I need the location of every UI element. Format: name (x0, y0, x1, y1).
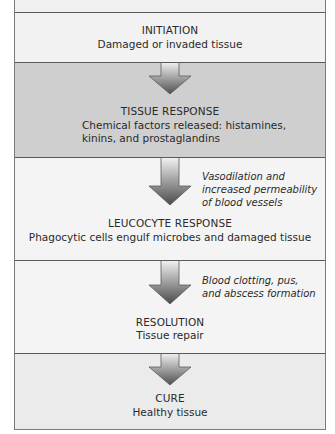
flowchart-frame: INITIATION Damaged or invaded tissue TIS… (14, 0, 326, 430)
transition-note-line-1: Blood clotting, pus, (202, 274, 299, 287)
stage-title: RESOLUTION (15, 316, 325, 328)
transition-note-line-2: increased permeability (202, 183, 317, 196)
stage-initiation: INITIATION Damaged or invaded tissue (15, 12, 325, 63)
transition-note-line-1: Vasodilation and (202, 170, 285, 183)
stage-description: Tissue repair (15, 329, 325, 342)
stage-cure: CURE Healthy tissue (15, 353, 325, 429)
stage-title: CURE (15, 392, 325, 404)
transition-note-line-2: and abscess formation (202, 287, 316, 300)
down-arrow-icon (15, 63, 325, 103)
top-strip (15, 0, 325, 12)
stage-description: Healthy tissue (15, 406, 325, 419)
down-arrow-icon (15, 354, 325, 390)
stage-title: TISSUE RESPONSE (15, 105, 325, 117)
stage-title: INITIATION (15, 24, 325, 36)
stage-resolution: Blood clotting, pus, and abscess formati… (15, 260, 325, 354)
stage-description-line-2: kinins, and prostaglandins (82, 132, 220, 145)
stage-description-line-1: Chemical factors released: histamines, (82, 119, 286, 132)
stage-description: Phagocytic cells engulf microbes and dam… (15, 231, 325, 244)
stage-tissue-response: TISSUE RESPONSE Chemical factors release… (15, 62, 325, 158)
transition-note-line-3: of blood vessels (202, 196, 282, 209)
stage-title: LEUCOCYTE RESPONSE (15, 217, 325, 229)
stage-leucocyte-response: Vasodilation and increased permeability … (15, 157, 325, 261)
stage-description: Damaged or invaded tissue (15, 38, 325, 51)
